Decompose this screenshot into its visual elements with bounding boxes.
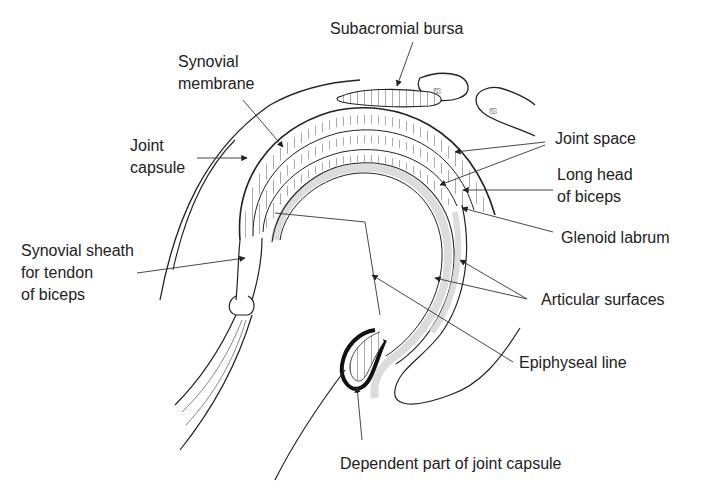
svg-text:ஐ: ஐ: [433, 83, 441, 94]
label-long-head-of-biceps: Long head of biceps: [557, 164, 633, 208]
shoulder-joint-diagram: ஐ ஐ: [0, 0, 716, 496]
label-dependent-part-of-joint-capsule: Dependent part of joint capsule: [340, 453, 561, 475]
label-joint-space: Joint space: [555, 128, 636, 150]
biceps-tendon: [175, 315, 252, 450]
label-epiphyseal-line: Epiphyseal line: [519, 352, 627, 374]
svg-text:ஐ: ஐ: [489, 103, 497, 114]
humerus-shaft: [275, 370, 345, 480]
label-subacromial-bursa: Subacromial bursa: [330, 18, 463, 40]
clavicle: [476, 88, 535, 137]
label-glenoid-labrum: Glenoid labrum: [561, 227, 670, 249]
biceps-sheath: [236, 238, 262, 300]
label-synovial-sheath: Synovial sheath for tendon of biceps: [21, 240, 134, 306]
label-joint-capsule: Joint capsule: [130, 135, 185, 179]
label-articular-surfaces: Articular surfaces: [541, 289, 665, 311]
label-synovial-membrane: Synovial membrane: [178, 51, 254, 95]
subacromial-bursa-shape: [337, 89, 441, 106]
